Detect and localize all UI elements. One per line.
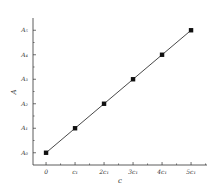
x-axis-title: c: [118, 177, 122, 185]
data-point-marker: [131, 77, 135, 81]
axes: [33, 18, 207, 165]
y-tick-label: A₃: [20, 75, 28, 82]
x-tick-label: c₁: [72, 168, 78, 175]
data-point-marker: [44, 151, 48, 155]
x-tick-label: 2c₁: [98, 168, 109, 175]
y-tick-label: A₁: [20, 124, 28, 131]
y-axis-title: A: [10, 89, 18, 95]
y-tick-label: A₅: [20, 26, 28, 33]
y-tick-label: A₂: [20, 100, 28, 107]
y-tick-label: A₄: [20, 51, 28, 58]
data-point-marker: [73, 126, 77, 130]
data-point-marker: [102, 102, 106, 106]
x-tick-label: 5c₁: [186, 168, 196, 175]
x-tick-label: 4c₁: [156, 168, 167, 175]
x-axis-ticks: 0c₁2c₁3c₁4c₁5c₁: [44, 162, 205, 175]
data-point-marker: [160, 53, 164, 57]
y-axis-ticks: A₀A₁A₂A₃A₄A₅: [20, 26, 36, 156]
line-chart: 0c₁2c₁3c₁4c₁5c₁ A₀A₁A₂A₃A₄A₅ c A: [0, 0, 218, 194]
data-point-marker: [189, 28, 193, 32]
series-line: [46, 30, 191, 153]
x-tick-label: 0: [44, 168, 48, 175]
y-tick-label: A₀: [20, 149, 28, 156]
x-tick-label: 3c₁: [128, 168, 138, 175]
data-series: [44, 28, 193, 155]
